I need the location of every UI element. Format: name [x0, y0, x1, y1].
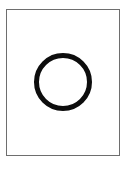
bordered-panel [6, 9, 120, 156]
figure-canvas [0, 0, 128, 169]
